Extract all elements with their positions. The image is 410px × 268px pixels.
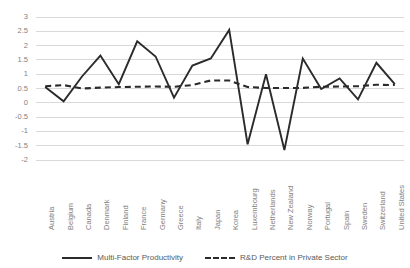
y-axis-tick-label: 3 xyxy=(6,13,28,21)
x-axis-tick-label: Germany xyxy=(159,199,167,230)
x-axis-tick-label: Denmark xyxy=(103,200,111,230)
dashed-line-swatch-icon xyxy=(205,257,235,259)
x-axis-tick-label: Sweden xyxy=(361,203,369,230)
x-axis-tick-label: Belgium xyxy=(67,203,75,230)
x-axis-tick-label: Netherlands xyxy=(269,190,277,230)
legend-item-rd-percent-in-private-sector[interactable]: R&D Percent in Private Sector xyxy=(205,253,348,262)
x-axis-tick-label: Switzerland xyxy=(379,191,387,230)
legend-item-label: Multi-Factor Productivity xyxy=(97,253,183,262)
x-axis-tick-label: France xyxy=(140,207,148,230)
series-lines xyxy=(45,30,395,150)
solid-line-swatch-icon xyxy=(62,257,92,259)
x-axis-tick-label: United States xyxy=(398,185,406,230)
x-axis-tick-label: Canada xyxy=(85,204,93,230)
x-axis-tick-label: Austria xyxy=(48,207,56,230)
y-axis-tick-label: 1 xyxy=(6,70,28,78)
y-axis-tick-label: -1 xyxy=(6,127,28,135)
y-axis-tick-label: 1.5 xyxy=(6,56,28,64)
x-axis-tick-label: Luxembourg xyxy=(251,188,259,230)
x-axis-tick-label: Portugal xyxy=(324,202,332,230)
y-axis-tick-label: 0.5 xyxy=(6,85,28,93)
x-axis-tick-label: Norway xyxy=(306,205,314,230)
x-axis-tick-label: Italy xyxy=(195,216,203,230)
y-axis-tick-label: -2 xyxy=(6,156,28,164)
y-axis-tick-label: 2 xyxy=(6,42,28,50)
x-axis-tick-label: Japan xyxy=(214,210,222,230)
y-axis-tick-label: 2.5 xyxy=(6,27,28,35)
legend-item-label: R&D Percent in Private Sector xyxy=(240,253,348,262)
x-axis-tick-label: Spain xyxy=(343,211,351,230)
x-axis-tick-label: Greece xyxy=(177,205,185,230)
x-axis-tick-label: New Zealand xyxy=(287,186,295,230)
chart-container: 32.521.510.50-0.5-1-1.5-2 AustriaBelgium… xyxy=(0,0,410,268)
x-axis-tick-label: Korea xyxy=(232,210,240,230)
y-axis-tick-label: -1.5 xyxy=(6,142,28,150)
y-axis-tick-label: 0 xyxy=(6,99,28,107)
y-axis-tick-label: -0.5 xyxy=(6,113,28,121)
chart-legend: Multi-Factor Productivity R&D Percent in… xyxy=(0,253,410,262)
legend-item-multi-factor-productivity[interactable]: Multi-Factor Productivity xyxy=(62,253,183,262)
x-axis-tick-label: Finland xyxy=(122,205,130,230)
